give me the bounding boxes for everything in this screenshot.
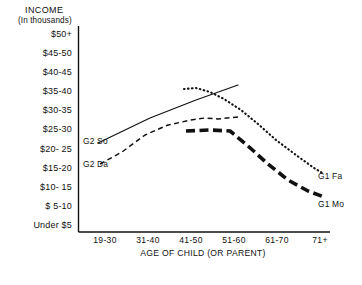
series-line-g1-mother	[186, 130, 324, 197]
income-by-age-line-chart: INCOME (In thousands) $50+ $45-50 $40-45…	[0, 0, 362, 285]
plot-area	[0, 0, 362, 285]
series-line-g2-son	[98, 85, 238, 143]
series-line-g2-daughter	[100, 117, 238, 164]
